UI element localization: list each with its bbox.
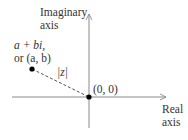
diagram-graphics: [0, 0, 188, 140]
point-a-b: [29, 66, 34, 71]
point-label-line1: a + bi,: [14, 39, 45, 52]
origin-point: [86, 94, 91, 99]
point-label-line2: or (a, b): [14, 52, 51, 65]
imaginary-axis-label-line2: axis: [40, 19, 59, 32]
modulus-label: |z|: [57, 66, 68, 79]
complex-plane-diagram: Imaginary axis a + bi, or (a, b) |z| (0,…: [0, 0, 188, 140]
real-axis-label-line2: axis: [162, 116, 181, 129]
real-axis-label-line1: Real: [162, 103, 183, 116]
origin-label: (0, 0): [93, 83, 118, 96]
imaginary-axis-label-line1: Imaginary: [40, 6, 87, 19]
